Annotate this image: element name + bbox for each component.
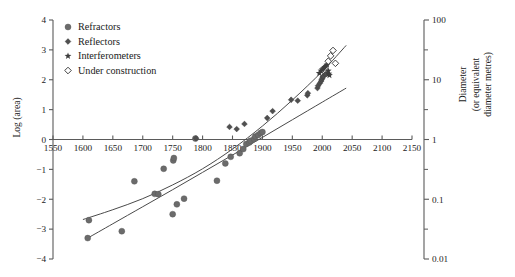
y-tick-label: −2	[36, 195, 46, 205]
x-tick-label: 1600	[74, 143, 93, 153]
y-tick-label: 2	[41, 75, 46, 85]
y2-axis-title-line: Diameter	[457, 66, 468, 102]
x-tick-label: 2150	[403, 143, 422, 153]
x-tick-label: 2000	[313, 143, 332, 153]
y2-tick-label: 0.01	[432, 254, 448, 264]
data-point	[174, 201, 180, 207]
legend-marker-diamond-open	[65, 67, 72, 74]
data-point	[131, 178, 137, 184]
y2-tick-label: 1	[432, 135, 437, 145]
data-point	[171, 155, 177, 161]
y-tick-label: −4	[36, 254, 46, 264]
x-axis-ticks: 1550160016501700175018001850190019502000…	[44, 136, 422, 153]
secondary-y-axis-ticks: 1001010.10.01	[424, 15, 448, 264]
data-point	[295, 98, 301, 104]
chart-canvas: −4−3−2−101234 15501600165017001750180018…	[0, 0, 515, 277]
data-point	[270, 108, 276, 114]
x-tick-label: 1950	[283, 143, 302, 153]
x-tick-label: 2100	[373, 143, 392, 153]
chart-legend: RefractorsReflectorsInterferometersUnder…	[65, 21, 157, 76]
data-point	[155, 191, 161, 197]
data-point	[170, 211, 176, 217]
y2-axis-title-line: diameter metres)	[482, 52, 494, 117]
x-tick-label: 1650	[104, 143, 123, 153]
data-point	[86, 217, 92, 223]
y2-tick-label: 0.1	[432, 195, 444, 205]
data-point	[228, 154, 234, 160]
x-tick-label: 1900	[253, 143, 272, 153]
data-point	[234, 126, 240, 132]
series-diamond-open	[325, 47, 339, 66]
legend-marker-star	[65, 52, 72, 59]
y-tick-label: −3	[36, 224, 46, 234]
y-tick-label: 1	[41, 105, 46, 115]
data-point	[242, 121, 248, 127]
x-tick-label: 1800	[193, 143, 212, 153]
y2-axis-title-line: (or equivalent	[470, 57, 482, 111]
data-point	[119, 228, 125, 234]
y-tick-label: −1	[36, 165, 46, 175]
data-point	[85, 235, 91, 241]
data-point	[181, 196, 187, 202]
y-tick-label: 4	[41, 15, 46, 25]
y2-tick-label: 100	[432, 15, 446, 25]
telescope-aperture-chart: −4−3−2−101234 15501600165017001750180018…	[0, 0, 515, 277]
x-tick-label: 1750	[163, 143, 182, 153]
legend-label: Refractors	[78, 21, 120, 32]
legend-label: Under construction	[78, 65, 156, 76]
legend-label: Reflectors	[78, 36, 120, 47]
data-point	[259, 129, 265, 135]
x-tick-label: 2050	[343, 143, 362, 153]
y-axis-title: Log (area)	[11, 97, 23, 137]
data-point	[227, 124, 233, 130]
data-point	[214, 178, 220, 184]
fit-curve-lower-fit	[88, 88, 346, 238]
data-point	[288, 97, 294, 103]
data-point	[161, 166, 167, 172]
y-axis-ticks: −4−3−2−101234	[36, 15, 53, 264]
legend-label: Interferometers	[78, 50, 141, 61]
legend-marker-diamond-filled	[65, 39, 71, 45]
x-tick-label: 1700	[134, 143, 153, 153]
data-point	[222, 160, 228, 166]
y-tick-label: 3	[41, 45, 46, 55]
data-point	[332, 60, 339, 67]
x-tick-label: 1550	[44, 143, 63, 153]
y2-tick-label: 10	[432, 75, 442, 85]
legend-marker-circle	[65, 24, 71, 30]
